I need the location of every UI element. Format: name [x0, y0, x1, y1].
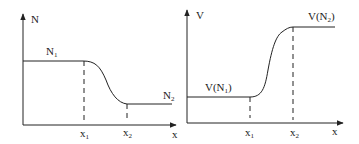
- left-level2-label: N2: [163, 89, 175, 103]
- right-y-axis-label: V: [196, 9, 204, 21]
- diagram: N x N1 N2 x1 x2 V x V(N1) V(N2): [0, 0, 359, 144]
- right-x-axis-label: x: [332, 125, 338, 137]
- right-level2-label: V(N2): [308, 10, 335, 24]
- left-curve: [23, 61, 172, 104]
- left-x2-tick-label: x2: [123, 126, 133, 140]
- left-x1-tick-label: x1: [80, 127, 90, 141]
- right-level1-label: V(N1): [205, 81, 232, 95]
- right-x1-tick-label: x1: [245, 126, 255, 140]
- right-panel: V x V(N1) V(N2) x1 x2: [187, 9, 343, 140]
- left-panel: N x N1 N2 x1 x2: [23, 13, 178, 141]
- left-y-axis-label: N: [31, 13, 39, 25]
- left-x-axis-label: x: [172, 128, 178, 140]
- right-x2-tick-label: x2: [290, 126, 300, 140]
- left-level1-label: N1: [46, 45, 58, 59]
